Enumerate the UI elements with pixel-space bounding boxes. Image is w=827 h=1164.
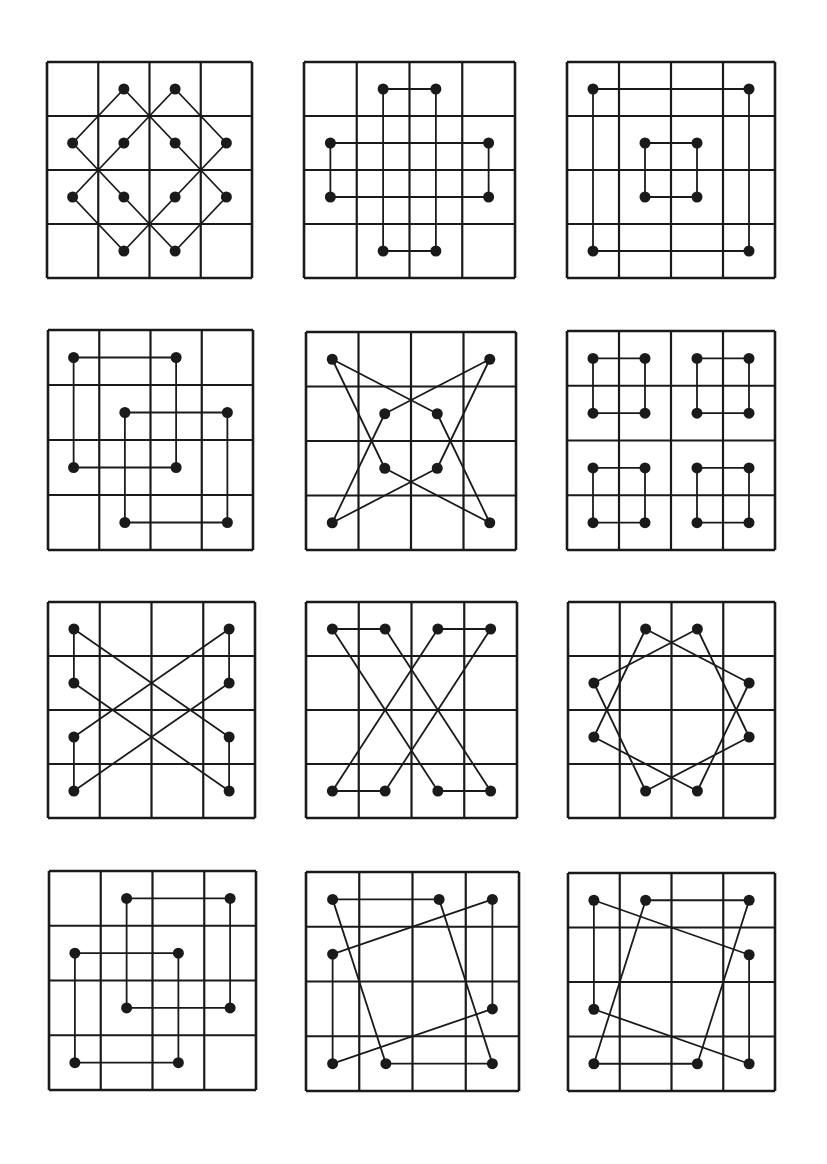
grid-lines — [48, 330, 253, 550]
grid-lines — [306, 602, 517, 818]
dot-icon — [67, 192, 78, 203]
dot-icon — [432, 408, 443, 419]
dot-icon — [173, 1057, 184, 1068]
dot-icon — [325, 192, 336, 203]
dot-icon — [692, 408, 703, 419]
dot-icon — [222, 407, 233, 418]
dot-icon — [588, 1058, 599, 1069]
dot-icon — [68, 678, 79, 689]
dot-icon — [118, 138, 129, 149]
dot-icon — [380, 624, 391, 635]
dot-icon — [171, 462, 182, 473]
dot-icon — [121, 1002, 132, 1013]
grid-panel-7 — [48, 602, 255, 818]
dot-icon — [121, 893, 132, 904]
dot-icon — [170, 138, 181, 149]
dot-icon — [327, 949, 338, 960]
dot-icon — [432, 624, 443, 635]
grid-panel-drawing — [567, 331, 775, 550]
grid-panel-3 — [567, 62, 775, 278]
dot-icon — [327, 786, 338, 797]
grid-panel-drawing — [48, 330, 253, 550]
dot-icon — [588, 462, 599, 473]
grid-lines — [306, 332, 516, 550]
dot-icon — [487, 1058, 498, 1069]
dot-icon — [432, 463, 443, 474]
dot-icon — [224, 786, 235, 797]
grid-panel-8 — [306, 602, 517, 818]
dot-icon — [588, 732, 599, 743]
grid-panel-10 — [49, 871, 256, 1090]
grid-panel-drawing — [306, 332, 516, 550]
dot-icon — [485, 786, 496, 797]
dot-icon — [588, 353, 599, 364]
dot-icon — [744, 353, 755, 364]
dot-icon — [487, 894, 498, 905]
dot-icon — [68, 462, 79, 473]
dot-icon — [119, 517, 130, 528]
dot-icon — [640, 462, 651, 473]
dot-icon — [224, 732, 235, 743]
dot-icon — [588, 246, 599, 257]
dot-icon — [327, 624, 338, 635]
dot-icon — [640, 624, 651, 635]
dot-icon — [744, 517, 755, 528]
dot-icon — [692, 462, 703, 473]
grid-panel-drawing — [568, 873, 775, 1091]
dot-icon — [692, 624, 703, 635]
grid-lines — [567, 62, 775, 278]
dot-icon — [378, 246, 389, 257]
dot-icon — [327, 894, 338, 905]
dot-icon — [173, 948, 184, 959]
dot-icon — [485, 624, 496, 635]
grid-panel-drawing — [304, 62, 515, 278]
dot-icon — [588, 84, 599, 95]
dot-icon — [744, 408, 755, 419]
dot-icon — [221, 192, 232, 203]
dot-icon — [640, 517, 651, 528]
dot-icon — [327, 517, 338, 528]
dot-icon — [327, 1058, 338, 1069]
dot-icon — [692, 517, 703, 528]
grid-panel-drawing — [306, 872, 519, 1091]
dot-icon — [379, 463, 390, 474]
dot-icon — [487, 1003, 498, 1014]
dot-icon — [484, 517, 495, 528]
grid-lines — [568, 602, 775, 818]
dot-icon — [640, 138, 651, 149]
grid-lines — [306, 872, 519, 1091]
dot-icon — [588, 895, 599, 906]
dot-icon — [588, 408, 599, 419]
dot-icon — [744, 949, 755, 960]
dot-icon — [640, 786, 651, 797]
grid-panel-drawing — [47, 62, 252, 278]
grid-panel-drawing — [306, 602, 517, 818]
dot-icon — [225, 893, 236, 904]
grid-panel-drawing — [49, 871, 256, 1090]
dot-icon — [221, 138, 232, 149]
dot-icon — [68, 352, 79, 363]
dot-icon — [744, 732, 755, 743]
dot-icon — [170, 84, 181, 95]
dot-icon — [118, 246, 129, 257]
dot-icon — [170, 192, 181, 203]
dot-icon — [692, 786, 703, 797]
grid-panel-9 — [568, 602, 775, 818]
dot-icon — [484, 354, 495, 365]
dot-icon — [744, 1058, 755, 1069]
dot-icon — [483, 192, 494, 203]
dot-icon — [744, 895, 755, 906]
grid-panel-4 — [48, 330, 253, 550]
dot-icon — [588, 517, 599, 528]
dot-icon — [588, 678, 599, 689]
dot-icon — [327, 354, 338, 365]
dot-icon — [68, 786, 79, 797]
dot-icon — [378, 84, 389, 95]
dot-icon — [640, 353, 651, 364]
dot-icon — [118, 84, 129, 95]
dot-icon — [432, 786, 443, 797]
grid-lines — [47, 62, 252, 278]
grid-lines — [48, 602, 255, 818]
dot-icon — [67, 138, 78, 149]
grid-panel-drawing — [48, 602, 255, 818]
